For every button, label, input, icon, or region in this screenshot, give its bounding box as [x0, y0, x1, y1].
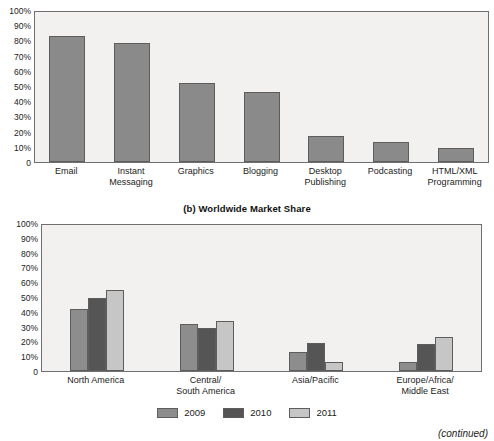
- chart-b-plot: [41, 224, 482, 372]
- chart-b-bars: [42, 225, 481, 371]
- bar: [417, 344, 435, 371]
- bar: [244, 92, 280, 162]
- bar: [70, 309, 88, 371]
- chart-a-plot: [34, 11, 489, 163]
- bar: [179, 83, 215, 162]
- bar: [289, 352, 307, 371]
- legend-item: 2009: [157, 407, 205, 418]
- bar: [399, 362, 417, 371]
- bar: [216, 321, 234, 371]
- category-label: Europe/Africa/ Middle East: [355, 375, 494, 397]
- chart-a-y-tick: 30%: [14, 113, 31, 122]
- chart-b-y-tick: 10%: [21, 353, 38, 362]
- chart-b-y-tick: 90%: [21, 235, 38, 244]
- bar: [114, 43, 150, 162]
- legend-swatch: [289, 408, 310, 418]
- chart-b-legend: 200920102011: [0, 407, 494, 418]
- legend-label: 2010: [250, 407, 271, 418]
- legend-label: 2009: [184, 407, 205, 418]
- chart-a-software-usage: 100%90%80%70%60%50%40%30%20%10%0 EmailIn…: [0, 0, 494, 200]
- chart-a-y-tick: 10%: [14, 144, 31, 153]
- chart-a-y-tick: 20%: [14, 128, 31, 137]
- chart-b-y-tick: 70%: [21, 264, 38, 273]
- bar: [308, 136, 344, 162]
- bar: [198, 328, 216, 371]
- bar: [438, 148, 474, 162]
- legend-label: 2011: [316, 407, 336, 418]
- continued-note: (continued): [438, 428, 488, 439]
- chart-a-plot-area: 100%90%80%70%60%50%40%30%20%10%0: [3, 11, 489, 163]
- legend-swatch: [223, 408, 244, 418]
- chart-a-y-tick: 100%: [9, 7, 31, 16]
- chart-b-y-tick: 60%: [21, 279, 38, 288]
- chart-a-y-tick: 80%: [14, 37, 31, 46]
- legend-item: 2011: [289, 407, 336, 418]
- legend-swatch: [157, 408, 178, 418]
- bar: [307, 343, 325, 371]
- chart-a-y-tick: 90%: [14, 22, 31, 31]
- chart-b-y-tick: 20%: [21, 338, 38, 347]
- chart-b-worldwide-market-share: (b) Worldwide Market Share 100%90%80%70%…: [0, 200, 494, 441]
- chart-a-bars: [35, 12, 488, 162]
- bar: [325, 362, 343, 371]
- chart-b-y-tick: 40%: [21, 309, 38, 318]
- bar: [373, 142, 409, 162]
- chart-a-y-tick: 40%: [14, 98, 31, 107]
- chart-a-y-axis: 100%90%80%70%60%50%40%30%20%10%0: [3, 11, 34, 163]
- bar: [49, 36, 85, 162]
- chart-b-y-tick: 100%: [16, 220, 38, 229]
- chart-a-y-tick: 60%: [14, 68, 31, 77]
- chart-b-plot-area: 100%90%80%70%60%50%40%30%20%10%0: [10, 224, 482, 372]
- chart-b-y-axis: 100%90%80%70%60%50%40%30%20%10%0: [10, 224, 41, 372]
- bar: [106, 290, 124, 371]
- chart-a-y-tick: 70%: [14, 52, 31, 61]
- chart-b-y-tick: 50%: [21, 294, 38, 303]
- category-label: HTML/XML Programming: [411, 166, 494, 188]
- chart-a-clipped-heading: [0, 0, 494, 6]
- bar: [88, 298, 106, 371]
- bar: [435, 337, 453, 371]
- figure-page: 100%90%80%70%60%50%40%30%20%10%0 EmailIn…: [0, 0, 494, 441]
- legend-item: 2010: [223, 407, 271, 418]
- bar: [180, 324, 198, 371]
- chart-a-y-tick: 50%: [14, 83, 31, 92]
- chart-b-y-tick: 80%: [21, 249, 38, 258]
- chart-b-y-tick: 30%: [21, 323, 38, 332]
- chart-b-title: (b) Worldwide Market Share: [0, 203, 494, 214]
